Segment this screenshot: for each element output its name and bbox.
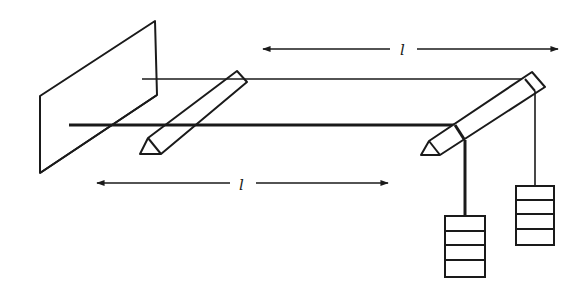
- wire-apparatus-diagram: l l: [0, 0, 584, 298]
- weight-stack-thin-wire: [516, 186, 554, 245]
- vertical-plate: [40, 21, 157, 173]
- right-knife-edge: [421, 72, 545, 155]
- weight-stack-thick-wire: [445, 216, 485, 277]
- bottom-length-label: l: [239, 176, 244, 194]
- top-length-label: l: [400, 41, 405, 59]
